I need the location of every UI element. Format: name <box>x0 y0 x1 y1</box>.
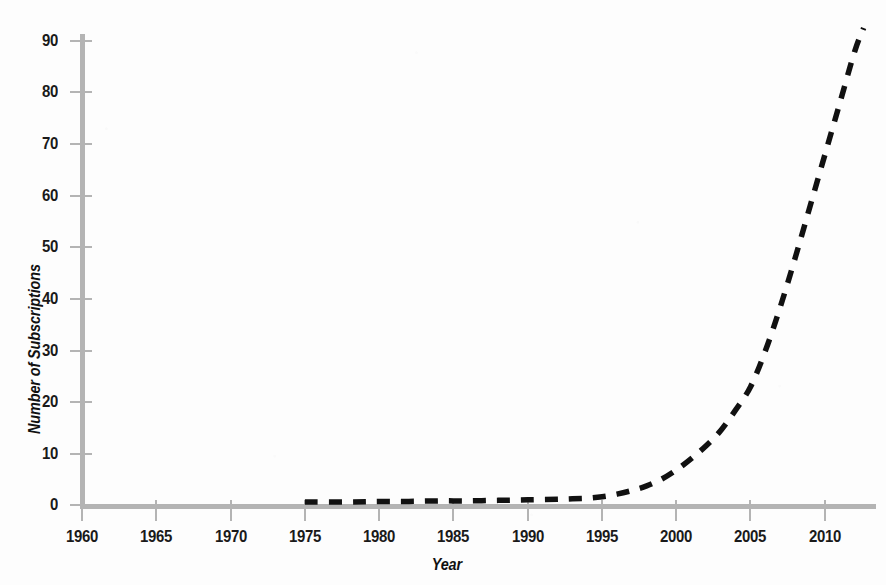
x-tick-label-2005: 2005 <box>715 527 785 547</box>
data-series-line <box>305 28 864 502</box>
y-tick-label-80: 80 <box>26 82 58 102</box>
plot-area <box>0 0 886 585</box>
y-tick-label-10: 10 <box>26 444 58 464</box>
y-tick-label-70: 70 <box>26 134 58 154</box>
x-tick-label-1990: 1990 <box>493 527 563 547</box>
x-tick-label-1980: 1980 <box>344 527 414 547</box>
y-axis-title: Number of Subscriptions <box>26 264 44 434</box>
y-tick-label-90: 90 <box>26 31 58 51</box>
y-tick-label-50: 50 <box>26 237 58 257</box>
x-tick-label-1970: 1970 <box>196 527 266 547</box>
x-tick-label-1960: 1960 <box>47 527 117 547</box>
x-tick-label-1975: 1975 <box>270 527 340 547</box>
y-tick-label-60: 60 <box>26 186 58 206</box>
x-axis-title: Year <box>432 556 462 574</box>
y-tick-label-0: 0 <box>26 495 58 515</box>
x-tick-label-1995: 1995 <box>567 527 637 547</box>
chart-figure: 90 80 70 60 50 40 30 20 10 0 1960 1965 1… <box>0 0 886 585</box>
x-tick-label-1965: 1965 <box>121 527 191 547</box>
x-tick-label-2000: 2000 <box>641 527 711 547</box>
x-tick-label-1985: 1985 <box>418 527 488 547</box>
x-tick-label-2010: 2010 <box>790 527 860 547</box>
